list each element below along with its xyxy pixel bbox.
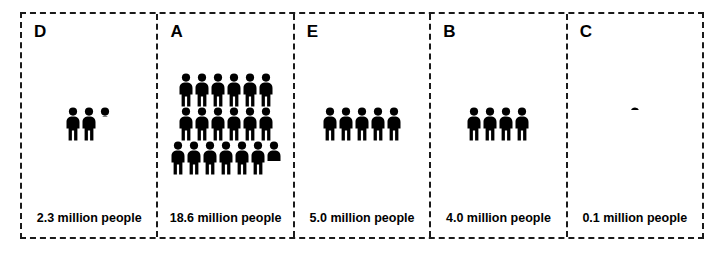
pictogram-chart: D2.3 million peopleA18.6 million peopleE… — [20, 12, 704, 239]
person-icon — [250, 141, 266, 175]
person-icon — [170, 141, 186, 175]
panel-value-label: 5.0 million people — [295, 212, 429, 226]
panel-letter: E — [307, 23, 319, 40]
panel-letter: B — [443, 23, 456, 40]
pictogram-panel-d: D2.3 million people — [22, 14, 158, 237]
panel-letter: D — [34, 23, 47, 40]
panel-letter: C — [580, 23, 593, 40]
icon-group — [158, 52, 292, 195]
icon-row — [178, 107, 274, 141]
pictogram-panel-c: C0.1 million people — [568, 14, 702, 237]
panel-letter: A — [170, 23, 183, 40]
person-icon-partial — [627, 107, 643, 110]
person-icon — [234, 141, 250, 175]
person-icon — [242, 73, 258, 107]
person-icon — [194, 73, 210, 107]
person-icon — [258, 107, 274, 141]
person-icon — [322, 107, 338, 141]
icon-group — [431, 52, 565, 195]
person-icon — [210, 73, 226, 107]
person-icon — [354, 107, 370, 141]
person-icon — [186, 141, 202, 175]
icon-group — [295, 52, 429, 195]
person-icon — [178, 107, 194, 141]
person-icon — [81, 107, 97, 141]
icon-row — [170, 141, 282, 175]
panel-value-label: 4.0 million people — [431, 212, 565, 226]
icon-group — [22, 52, 156, 195]
panel-value-label: 2.3 million people — [22, 212, 156, 226]
person-icon — [218, 141, 234, 175]
icon-row — [627, 107, 643, 141]
icon-row — [466, 107, 530, 141]
person-icon-partial — [97, 107, 113, 117]
person-icon — [386, 107, 402, 141]
person-icon — [338, 107, 354, 141]
person-icon — [482, 107, 498, 141]
person-icon — [178, 73, 194, 107]
person-icon — [514, 107, 530, 141]
icon-row — [178, 73, 274, 107]
icon-row — [322, 107, 402, 141]
person-icon — [242, 107, 258, 141]
person-icon — [194, 107, 210, 141]
person-icon — [210, 107, 226, 141]
panel-value-label: 18.6 million people — [158, 212, 292, 226]
pictogram-panel-a: A18.6 million people — [158, 14, 294, 237]
icon-row — [65, 107, 113, 141]
panel-value-label: 0.1 million people — [568, 212, 702, 226]
person-icon — [370, 107, 386, 141]
person-icon — [498, 107, 514, 141]
person-icon — [258, 73, 274, 107]
person-icon — [466, 107, 482, 141]
icon-group — [568, 52, 702, 195]
pictogram-panel-b: B4.0 million people — [431, 14, 567, 237]
person-icon — [65, 107, 81, 141]
person-icon-partial — [266, 141, 282, 161]
person-icon — [226, 107, 242, 141]
person-icon — [202, 141, 218, 175]
pictogram-panel-e: E5.0 million people — [295, 14, 431, 237]
person-icon — [226, 73, 242, 107]
